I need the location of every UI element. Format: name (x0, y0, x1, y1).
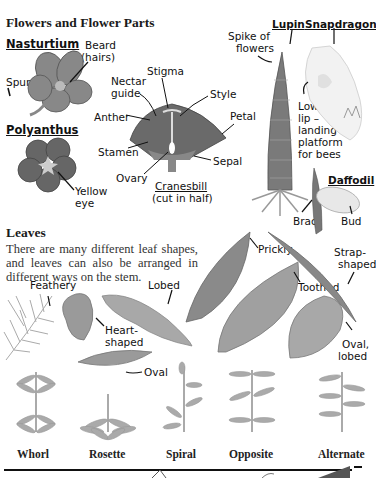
bottom-edge-illustration (0, 0, 376, 478)
